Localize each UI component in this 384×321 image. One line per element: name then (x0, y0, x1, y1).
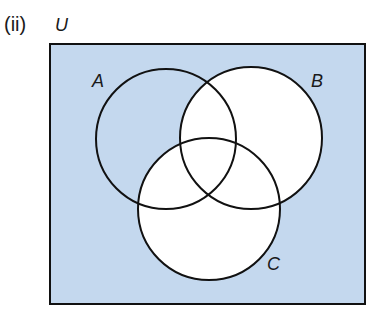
part-label: (ii) (4, 14, 26, 34)
universal-set-label: U (55, 16, 68, 34)
venn-diagram (0, 0, 384, 321)
set-a-label: A (92, 72, 104, 90)
set-b-label: B (311, 72, 323, 90)
set-c-label: C (267, 255, 280, 273)
